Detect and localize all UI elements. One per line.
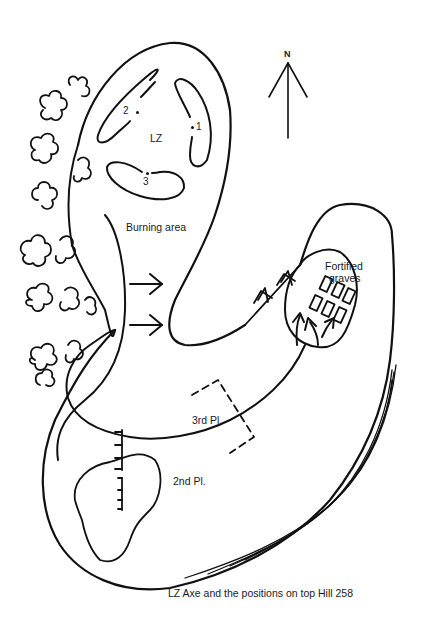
map-caption: LZ Axe and the positions on top Hill 258 bbox=[168, 588, 353, 599]
fortified-graves-label-2: graves bbox=[329, 273, 361, 284]
compass-north-label: N bbox=[284, 50, 291, 59]
position-2-label: 2 bbox=[123, 106, 129, 116]
second-platoon-line bbox=[67, 330, 305, 439]
lz-label: LZ bbox=[150, 133, 162, 144]
north-arrow-icon bbox=[269, 63, 307, 138]
hill-258-map bbox=[0, 0, 421, 633]
burning-area-label: Burning area bbox=[126, 222, 186, 233]
fortified-graves-label-1: Fortified bbox=[325, 261, 363, 272]
burning-area-boundary bbox=[57, 215, 125, 460]
wire-line bbox=[245, 265, 300, 325]
position-2-dot bbox=[136, 111, 139, 114]
position-1-label: 1 bbox=[196, 122, 202, 132]
trench-ticks bbox=[115, 430, 122, 510]
hill-outline bbox=[43, 43, 394, 590]
third-platoon-label: 3rd Pl. bbox=[192, 415, 222, 426]
position-3-label: 3 bbox=[143, 177, 149, 187]
second-platoon-terrain bbox=[75, 454, 161, 561]
stream-lines bbox=[185, 365, 396, 578]
position-1-dot bbox=[191, 126, 194, 129]
burning-arrows-icon bbox=[130, 274, 162, 335]
position-3-dot bbox=[146, 172, 149, 175]
second-platoon-label: 2nd Pl. bbox=[173, 476, 206, 487]
